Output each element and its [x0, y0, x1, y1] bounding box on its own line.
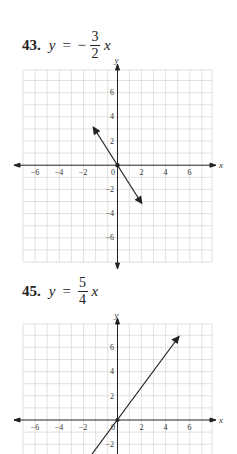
graph-43: x y −6 −4 −2 0 2 4 6 6 4 2 −2 −4 −6: [0, 0, 237, 270]
y-tick: 4: [110, 112, 114, 121]
x-tick: −6: [31, 423, 40, 432]
y-tick: −2: [105, 185, 114, 194]
fraction: 5 4: [78, 276, 88, 307]
x-tick: 2: [140, 168, 144, 177]
y-axis-label: y: [114, 314, 119, 320]
y-tick: −2: [105, 440, 114, 449]
x-axis-label: x: [218, 160, 223, 170]
x-tick: 6: [188, 423, 192, 432]
y-tick: 4: [110, 367, 114, 376]
x-axis-label: x: [218, 415, 223, 425]
axes: [14, 64, 216, 269]
numerator: 5: [79, 276, 86, 290]
x-tick: −6: [31, 168, 40, 177]
problem-45-heading: 45. y = 5 4 x: [22, 276, 98, 307]
graph-45: x y −6 −4 −2 0 2 4 6 6 4 2 −2: [0, 314, 237, 454]
x-tick: 6: [188, 168, 192, 177]
x-tick: 2: [140, 423, 144, 432]
x-tick-labels: −6 −4 −2 0 2 4 6: [31, 168, 192, 177]
equation-lhs: y: [49, 283, 56, 300]
y-tick: 2: [110, 137, 114, 146]
axes: [14, 318, 216, 454]
y-axis-label: y: [114, 55, 119, 65]
x-tick: 4: [164, 423, 168, 432]
x-tick: −2: [79, 423, 88, 432]
y-tick: 6: [110, 88, 114, 97]
equals-sign: =: [61, 283, 71, 300]
y-tick: −4: [105, 209, 114, 218]
y-tick: 6: [110, 343, 114, 352]
x-tick: −4: [55, 423, 64, 432]
x-tick: −2: [79, 168, 88, 177]
y-tick: 2: [110, 392, 114, 401]
denominator: 4: [79, 293, 86, 307]
x-tick: 0: [111, 168, 115, 177]
x-tick: −4: [55, 168, 64, 177]
x-tick: 4: [164, 168, 168, 177]
y-tick: −6: [105, 233, 114, 242]
variable: x: [92, 283, 99, 300]
problem-number: 45.: [22, 283, 41, 300]
equation: y = 5 4 x: [49, 276, 98, 307]
